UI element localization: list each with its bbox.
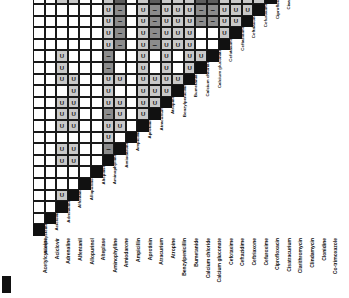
matrix-cell — [33, 108, 45, 120]
matrix-cell: – — [103, 143, 115, 155]
matrix-cell: U — [103, 0, 115, 4]
cell-symbol-u: U — [69, 0, 79, 3]
cell-symbol-u: U — [231, 5, 241, 15]
row-label: Adrenaline — [66, 200, 71, 223]
cell-symbol-u: U — [162, 63, 172, 73]
cell-symbol-dash: – — [196, 0, 206, 3]
matrix-cell: – — [114, 27, 126, 39]
matrix-cell: U — [56, 62, 68, 74]
matrix-cell — [45, 85, 57, 97]
matrix-cell: U — [161, 4, 173, 16]
matrix-cell — [33, 190, 45, 202]
matrix-cell — [33, 50, 45, 62]
matrix-cell — [91, 4, 103, 16]
cell-symbol-u: U — [104, 98, 114, 108]
matrix-cell: U — [56, 50, 68, 62]
matrix-cell: U — [103, 85, 115, 97]
matrix-cell — [45, 39, 57, 51]
cell-symbol-u: U — [104, 86, 114, 96]
matrix-cell — [126, 120, 138, 132]
matrix-cell — [45, 108, 57, 120]
cell-symbol-u: U — [104, 5, 114, 15]
matrix-cell — [68, 178, 80, 190]
matrix-cell — [91, 0, 103, 4]
matrix-cell: U — [172, 39, 184, 51]
matrix-cell: U — [230, 4, 242, 16]
matrix-cell: U — [219, 0, 231, 4]
column-label: Aciclovir — [54, 238, 60, 259]
cell-symbol-u: U — [243, 5, 253, 15]
matrix-cell — [91, 85, 103, 97]
column-label: Benzylpenicillin — [181, 238, 187, 276]
cell-symbol-dash: – — [150, 0, 160, 3]
matrix-cell: – — [103, 62, 115, 74]
matrix-cell: – — [149, 4, 161, 16]
matrix-cell — [114, 132, 126, 144]
cell-symbol-u: U — [104, 17, 114, 27]
matrix-cell — [172, 50, 184, 62]
cell-symbol-u: U — [185, 28, 195, 38]
matrix-cell: – — [149, 27, 161, 39]
row-label: Cisatracurium — [286, 0, 291, 9]
matrix-cell: U — [56, 190, 68, 202]
cell-symbol-u: U — [104, 133, 114, 143]
matrix-cell: U — [56, 155, 68, 167]
matrix-cell: U — [230, 0, 242, 4]
matrix-cell: U — [137, 108, 149, 120]
matrix-cell — [45, 166, 57, 178]
matrix-cell — [56, 16, 68, 28]
cell-symbol-dash: – — [150, 40, 160, 50]
cell-symbol-u: U — [104, 0, 114, 3]
matrix-cell: – — [103, 50, 115, 62]
matrix-cell — [91, 27, 103, 39]
cell-symbol-u: U — [150, 98, 160, 108]
matrix-cell: U — [161, 16, 173, 28]
matrix-cell: U — [219, 4, 231, 16]
matrix-cell — [33, 74, 45, 86]
matrix-cell — [172, 62, 184, 74]
matrix-cell — [33, 39, 45, 51]
matrix-cell — [91, 120, 103, 132]
cell-symbol-dash: – — [150, 5, 160, 15]
cell-symbol-u: U — [162, 86, 172, 96]
matrix-cell: U — [137, 4, 149, 16]
cell-symbol-u: U — [162, 17, 172, 27]
cell-symbol-u: U — [57, 0, 67, 3]
cell-symbol-dash: – — [115, 28, 125, 38]
matrix-cell: U — [68, 155, 80, 167]
matrix-cell: U — [242, 0, 254, 4]
matrix-cell: U — [161, 27, 173, 39]
matrix-cell — [33, 16, 45, 28]
matrix-cell — [79, 39, 91, 51]
matrix-cell: – — [207, 4, 219, 16]
row-label: Cefotaxime — [228, 38, 233, 62]
cell-symbol-u: U — [173, 0, 183, 3]
column-label: Cefuroxime — [263, 238, 269, 266]
cell-symbol-u: U — [69, 75, 79, 85]
matrix-cell — [56, 4, 68, 16]
cell-symbol-u: U — [231, 0, 241, 3]
matrix-cell — [91, 155, 103, 167]
matrix-cell — [126, 27, 138, 39]
matrix-cell: U — [184, 4, 196, 16]
column-label: Ceftriaxone — [251, 238, 257, 266]
cell-symbol-u: U — [162, 5, 172, 15]
compatibility-matrix: AcetylcysteineAciclovirAdrenalineUAlfent… — [0, 0, 349, 298]
cell-symbol-u: U — [138, 40, 148, 50]
matrix-cell — [195, 27, 207, 39]
matrix-cell — [33, 155, 45, 167]
column-label: Cefotaxime — [228, 238, 234, 265]
matrix-cell: U — [114, 74, 126, 86]
cell-symbol-u: U — [162, 40, 172, 50]
matrix-cell: U — [161, 74, 173, 86]
matrix-cell — [68, 132, 80, 144]
cell-symbol-dash: – — [115, 40, 125, 50]
cell-symbol-dash: – — [208, 0, 218, 3]
matrix-cell — [33, 27, 45, 39]
matrix-cell — [126, 97, 138, 109]
row-label: Calcium chloride — [205, 61, 210, 96]
cell-symbol-u: U — [57, 109, 67, 119]
cell-symbol-u: U — [138, 0, 148, 3]
matrix-cell — [79, 132, 91, 144]
matrix-cell: U — [103, 39, 115, 51]
